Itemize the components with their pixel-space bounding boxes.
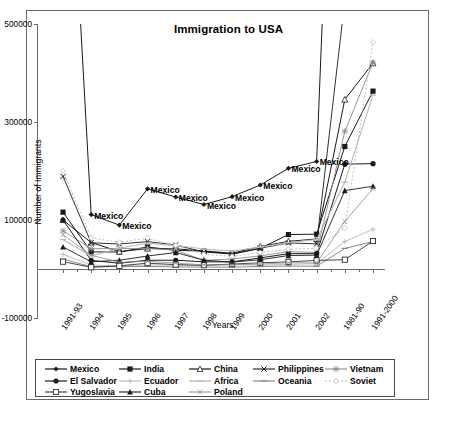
y-tick [34,24,38,25]
data-point [370,238,375,243]
legend-marker-x-thin-icon [188,387,212,397]
data-point [60,252,65,257]
x-minor-tick [105,269,106,272]
legend-label: Oceania [278,376,311,386]
legend-marker-plus-icon [118,376,142,386]
x-minor-tick [190,269,191,272]
x-minor-tick [274,269,275,272]
data-point [286,166,291,171]
x-tick [63,269,64,273]
point-label: Mexico [291,164,320,174]
x-minor-tick [246,269,247,272]
chart-screenshot: Immigration to USA -10000010000030000050… [0,0,455,428]
legend-marker-square-open-icon [44,387,68,397]
data-point [173,194,178,199]
legend-item-cuba[interactable]: Cuba [118,386,165,398]
legend-item-oceania[interactable]: Oceania [252,375,311,387]
x-tick [288,269,289,273]
x-tick [204,269,205,273]
legend: MexicoIndiaChinaPhilippinesVietnamEl Sal… [35,359,395,397]
data-point [342,128,348,134]
x-tick [373,269,374,273]
legend-item-ecuador[interactable]: Ecuador [118,375,178,387]
x-tick [345,269,346,273]
legend-label: El Salvador [70,376,117,386]
point-label: Mexico [320,157,349,167]
legend-row: El SalvadorEcuadorAfricaOceaniaSoviet [36,375,396,387]
y-tick [34,318,38,319]
y-tick-label: 100000 [4,215,32,225]
point-label: Mexico [263,181,292,191]
x-minor-tick [331,269,332,272]
data-point [127,378,132,383]
x-tick [91,269,92,273]
data-point [342,144,347,149]
data-point [53,390,58,395]
legend-marker-x-cross-icon [252,364,276,374]
legend-label: Philippines [278,364,324,374]
legend-label: Poland [214,387,243,397]
x-tick [148,269,149,273]
y-tick-label: 300000 [4,117,32,127]
series-line [63,91,373,254]
legend-item-poland[interactable]: Poland [188,386,243,398]
data-point [89,212,94,217]
legend-item-vietnam[interactable]: Vietnam [324,363,383,375]
legend-marker-square-filled-icon [118,364,142,374]
legend-label: Ecuador [144,376,178,386]
legend-marker-diamond-filled-icon [44,364,68,374]
legend-item-yugoslavia[interactable]: Yugoslavia [44,386,115,398]
legend-item-soviet[interactable]: Soviet [324,375,376,387]
data-point [60,210,65,215]
x-tick [232,269,233,273]
data-point [89,235,94,240]
x-tick [176,269,177,273]
legend-marker-circle-filled-icon [44,376,68,386]
point-label: Mexico [151,185,180,195]
data-point [53,378,58,383]
series-line [63,242,373,268]
x-tick [260,269,261,273]
data-point [53,366,58,371]
legend-item-el-salvador[interactable]: El Salvador [44,375,117,387]
data-point [370,60,376,66]
x-minor-tick [359,269,360,272]
legend-item-china[interactable]: China [188,363,238,375]
legend-item-india[interactable]: India [118,363,164,375]
legend-label: Yugoslavia [70,387,115,397]
x-minor-tick [218,269,219,272]
legend-row: YugoslaviaCubaPoland [36,386,396,398]
legend-label: China [214,364,238,374]
data-point [60,228,66,234]
legend-label: Mexico [70,364,99,374]
data-point [60,244,66,250]
data-point [333,378,338,383]
legend-marker-dash-icon [188,376,212,386]
legend-marker-dash-icon [252,376,276,386]
data-point [60,259,65,264]
data-point [370,227,375,232]
x-tick [317,269,318,273]
x-minor-tick [162,269,163,272]
data-point [88,246,94,252]
legend-row: MexicoIndiaChinaPhilippinesVietnam [36,363,396,375]
data-point [286,232,291,237]
legend-label: Vietnam [350,364,383,374]
series-line [63,241,373,267]
y-tick-label: 500000 [4,19,32,29]
data-point [286,247,291,252]
data-point [286,259,291,264]
legend-label: Africa [214,376,238,386]
legend-item-philippines[interactable]: Philippines [252,363,324,375]
point-label: Mexico [207,201,236,211]
legend-marker-triangle-filled-icon [118,387,142,397]
point-label: Mexico [179,193,208,203]
legend-item-africa[interactable]: Africa [188,375,238,387]
data-point [342,219,347,224]
data-point [127,366,132,371]
x-axis-title: Years [212,320,234,330]
legend-item-mexico[interactable]: Mexico [44,363,99,375]
legend-label: Soviet [350,376,376,386]
point-label: Mexico [122,221,151,231]
x-minor-tick [77,269,78,272]
